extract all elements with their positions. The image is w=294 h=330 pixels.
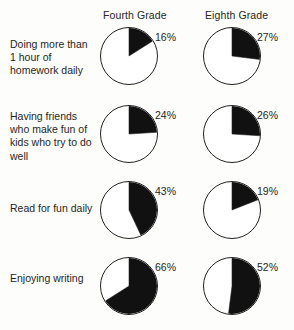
row-label-homework: Doing more than 1 hour of homework daily	[10, 38, 96, 78]
pie-value-read-for-fun-fourth-grade: 43%	[155, 185, 176, 197]
pie-chart-enjoying-writing-eighth-grade	[203, 257, 261, 315]
pie-chart-read-for-fun-eighth-grade	[203, 181, 261, 239]
pie-value-friends-make-fun-fourth-grade: 24%	[155, 109, 176, 121]
pie-slice	[204, 258, 260, 314]
pie-chart-figure: Fourth Grade Eighth Grade Doing more tha…	[0, 0, 294, 330]
pie-slice	[204, 28, 260, 84]
column-header-fourth-grade: Fourth Grade	[103, 9, 167, 21]
pie-value-enjoying-writing-fourth-grade: 66%	[155, 261, 176, 273]
pie-chart-read-for-fun-fourth-grade	[100, 181, 158, 239]
pie-slice	[204, 182, 260, 238]
pie-slice	[101, 28, 157, 84]
pie-slice	[101, 106, 157, 162]
pie-value-enjoying-writing-eighth-grade: 52%	[257, 261, 278, 273]
pie-chart-enjoying-writing-fourth-grade	[100, 257, 158, 315]
pie-value-homework-fourth-grade: 16%	[155, 31, 176, 43]
row-label-friends-make-fun: Having friends who make fun of kids who …	[10, 110, 96, 163]
pie-chart-friends-make-fun-eighth-grade	[203, 105, 261, 163]
pie-slice	[101, 258, 157, 314]
pie-chart-homework-fourth-grade	[100, 27, 158, 85]
pie-slice	[101, 182, 157, 238]
row-label-enjoying-writing: Enjoying writing	[10, 272, 96, 285]
column-header-eighth-grade: Eighth Grade	[205, 9, 268, 21]
pie-chart-friends-make-fun-fourth-grade	[100, 105, 158, 163]
pie-value-homework-eighth-grade: 27%	[257, 31, 278, 43]
pie-slice	[204, 106, 260, 162]
row-label-read-for-fun: Read for fun daily	[10, 202, 96, 215]
pie-chart-homework-eighth-grade	[203, 27, 261, 85]
pie-value-friends-make-fun-eighth-grade: 26%	[257, 109, 278, 121]
pie-value-read-for-fun-eighth-grade: 19%	[257, 185, 278, 197]
